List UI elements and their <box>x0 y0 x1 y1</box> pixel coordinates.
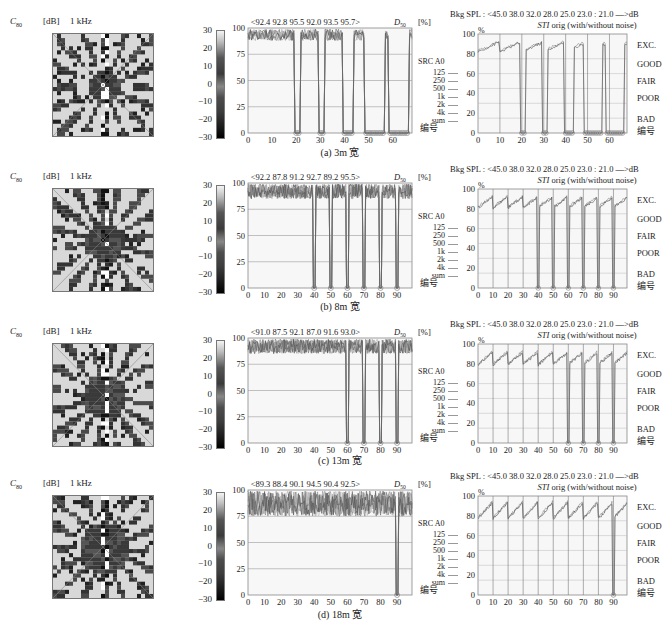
svg-text:0: 0 <box>476 597 480 607</box>
svg-text:<92.4 92.8 95.5 92.0 93.5: <92.4 92.8 95.5 92.0 93.5 95.7> <box>251 17 361 27</box>
svg-text:50: 50 <box>237 386 246 396</box>
svg-text:100: 100 <box>232 333 245 343</box>
svg-text:编号: 编号 <box>637 587 655 598</box>
sti-chart: 1008060402000102030405060708090Bkg SPL :… <box>478 189 627 288</box>
svg-text:40: 40 <box>467 243 476 253</box>
figure-row-c: C80 [dB] 1 kHz 3020100−10−20−30 10075502… <box>0 310 670 465</box>
colorbar <box>216 30 225 139</box>
svg-text:10: 10 <box>496 135 505 145</box>
svg-text:%: % <box>478 488 485 497</box>
legend-title: SRC A0 <box>418 368 458 376</box>
svg-text:100: 100 <box>232 23 245 33</box>
svg-text:40: 40 <box>467 550 476 560</box>
svg-text:Bkg SPL : <45.0 38.0 32.0: Bkg SPL : <45.0 38.0 32.0 28.0 25.0 23.0… <box>450 471 639 481</box>
svg-text:0: 0 <box>241 438 245 448</box>
svg-text:60: 60 <box>564 445 573 455</box>
colorbar-tick: 0 <box>186 235 212 244</box>
svg-text:FAIR: FAIR <box>637 386 656 396</box>
svg-text:Bkg SPL : <45.0 38.0 32.0: Bkg SPL : <45.0 38.0 32.0 28.0 25.0 23.0… <box>450 164 639 174</box>
svg-text:60: 60 <box>467 379 476 389</box>
colorbar-tick: −20 <box>186 425 212 434</box>
svg-text:0: 0 <box>241 590 245 600</box>
svg-text:100: 100 <box>232 178 245 188</box>
svg-text:BAD: BAD <box>637 269 655 279</box>
svg-text:60: 60 <box>467 531 476 541</box>
svg-text:Bkg SPL : <45.0 38.0 32.0: Bkg SPL : <45.0 38.0 32.0 28.0 25.0 23.0… <box>450 9 639 19</box>
heatmap-frequency: 1 kHz <box>70 16 92 26</box>
svg-text:70: 70 <box>579 445 588 455</box>
legend-title: SRC A0 <box>418 213 458 221</box>
svg-text:50: 50 <box>583 135 592 145</box>
svg-text:POOR: POOR <box>637 93 660 103</box>
colorbar-tick: −10 <box>186 559 212 568</box>
svg-text:90: 90 <box>609 290 618 300</box>
svg-text:50: 50 <box>549 445 558 455</box>
legend-title: SRC A0 <box>418 520 458 528</box>
svg-text:75: 75 <box>237 359 246 369</box>
svg-text:<91.0 87.5 92.1 87.0 91.6: <91.0 87.5 92.1 87.0 91.6 93.0> <box>251 327 361 337</box>
svg-text:POOR: POOR <box>637 403 660 413</box>
colorbar-tick: 20 <box>186 44 212 53</box>
svg-text:20: 20 <box>504 597 513 607</box>
colorbar-tick: 10 <box>186 62 212 71</box>
svg-text:40: 40 <box>534 597 543 607</box>
svg-text:0: 0 <box>246 135 250 145</box>
svg-text:STI orig (with/without noise): STI orig (with/without noise) <box>538 175 637 185</box>
svg-text:50: 50 <box>549 597 558 607</box>
svg-text:20: 20 <box>467 108 476 118</box>
svg-text:75: 75 <box>237 49 246 59</box>
colorbar-tick: 30 <box>186 336 212 345</box>
legend-item: sum <box>418 427 458 435</box>
svg-text:20: 20 <box>518 135 527 145</box>
svg-text:BAD: BAD <box>637 114 655 124</box>
colorbar-tick: 20 <box>186 506 212 515</box>
heatmap-frequency: 1 kHz <box>70 171 92 181</box>
colorbar-tick: 30 <box>186 181 212 190</box>
svg-text:FAIR: FAIR <box>637 538 656 548</box>
svg-text:D50: D50 <box>393 327 406 338</box>
svg-text:80: 80 <box>467 204 476 214</box>
svg-text:40: 40 <box>467 398 476 408</box>
svg-text:100: 100 <box>462 339 475 349</box>
colorbar-tick: −20 <box>186 115 212 124</box>
svg-text:GOOD: GOOD <box>637 521 662 531</box>
colorbar-tick: −10 <box>186 97 212 106</box>
svg-text:70: 70 <box>579 290 588 300</box>
svg-text:<89.3 88.4 90.1 94.5 90.4: <89.3 88.4 90.1 94.5 90.4 92.5> <box>251 479 361 489</box>
svg-text:90: 90 <box>609 597 618 607</box>
svg-text:编号: 编号 <box>637 125 655 136</box>
svg-text:20: 20 <box>467 418 476 428</box>
colorbar-tick: −10 <box>186 407 212 416</box>
svg-text:80: 80 <box>467 359 476 369</box>
svg-text:60: 60 <box>467 224 476 234</box>
svg-text:%: % <box>478 181 485 190</box>
c80-heatmap <box>52 33 154 137</box>
sti-chart: 1008060402000102030405060708090Bkg SPL :… <box>478 496 627 595</box>
colorbar-tick: 0 <box>186 542 212 551</box>
svg-text:STI orig (with/without noise): STI orig (with/without noise) <box>538 482 637 492</box>
svg-text:0: 0 <box>241 128 245 138</box>
svg-text:60: 60 <box>605 135 614 145</box>
svg-text:0: 0 <box>246 597 250 607</box>
colorbar-tick: −30 <box>186 133 212 142</box>
colorbar-tick: −20 <box>186 577 212 586</box>
svg-text:Bkg SPL : <45.0 38.0 32.0: Bkg SPL : <45.0 38.0 32.0 28.0 25.0 23.0… <box>450 319 639 329</box>
svg-text:50: 50 <box>237 231 246 241</box>
svg-text:100: 100 <box>462 184 475 194</box>
heatmap-symbol: C80 <box>10 326 22 338</box>
svg-text:EXC.: EXC. <box>637 40 656 50</box>
svg-text:25: 25 <box>237 412 246 422</box>
d50-chart: 10075502500102030405060708090<89.3 88.4 … <box>248 490 412 595</box>
svg-text:40: 40 <box>561 135 570 145</box>
svg-text:POOR: POOR <box>637 555 660 565</box>
heatmap-symbol: C80 <box>10 16 22 28</box>
svg-text:[%]: [%] <box>418 327 431 337</box>
colorbar-tick: 30 <box>186 26 212 35</box>
colorbar-tick: 30 <box>186 488 212 497</box>
svg-text:100: 100 <box>462 29 475 39</box>
svg-text:30: 30 <box>519 597 528 607</box>
svg-text:0: 0 <box>471 438 475 448</box>
svg-text:0: 0 <box>471 128 475 138</box>
colorbar <box>216 185 225 294</box>
svg-text:10: 10 <box>260 597 269 607</box>
